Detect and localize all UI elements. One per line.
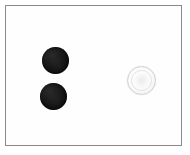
image-title: Photograph of three round objects on a w… xyxy=(0,0,1,1)
dark-disc-top-label: Black round object (upper left) xyxy=(42,47,43,48)
coin-relief xyxy=(134,73,149,88)
photo-scene: Black round object (upper left) Black ro… xyxy=(0,0,190,155)
photo-frame: Black round object (upper left) Black ro… xyxy=(5,5,182,146)
dark-disc-top: Black round object (upper left) xyxy=(42,47,69,74)
photo-canvas: Black round object (upper left) Black ro… xyxy=(6,6,181,145)
pale-coin: Pale silver coin (right) xyxy=(127,66,156,95)
dark-disc-bottom: Black round object (lower left) xyxy=(40,83,67,110)
pale-coin-label: Pale silver coin (right) xyxy=(128,67,129,68)
dark-disc-bottom-label: Black round object (lower left) xyxy=(40,83,41,84)
